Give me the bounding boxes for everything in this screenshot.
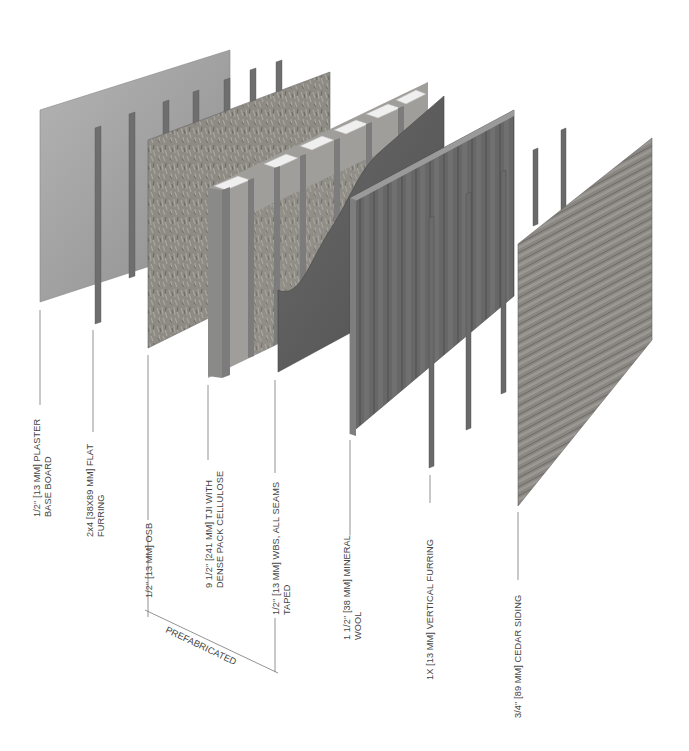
wall-assembly-diagram: 1/2" [13 MM] PLASTER BASE BOARD 2x4 [38X… bbox=[0, 0, 689, 751]
label-tji: 9 1/2" [241 MM] TJI WITH DENSE PACK CELL… bbox=[204, 471, 225, 588]
label-mineral-wool: 1 1/2" [38 MM] MINERAL WOOL bbox=[342, 533, 363, 640]
label-osb: 1/2" [13 MM] OSB bbox=[144, 523, 154, 598]
label-wbs: 1/2" [13 MM] WBS, ALL SEAMS TAPED bbox=[271, 479, 292, 615]
label-cedar-siding: 3/4" [89 MM] CEDAR SIDING bbox=[513, 595, 523, 718]
label-prefabricated: PREFABRICATED bbox=[164, 625, 238, 667]
label-vertical-furring: 1X [13 MM] VERTICAL FURRING bbox=[425, 539, 435, 680]
label-plaster: 1/2" [13 MM] PLASTER BASE BOARD bbox=[32, 416, 53, 517]
label-flat-furring: 2x4 [38X89 MM] FLAT FURRING bbox=[85, 441, 106, 537]
